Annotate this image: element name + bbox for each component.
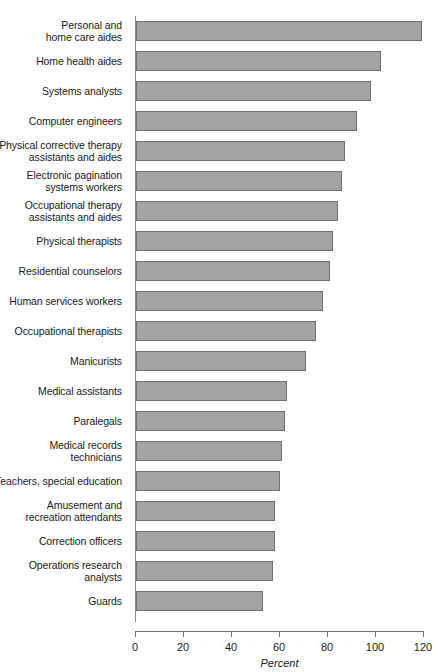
axis-tick-label: 60 xyxy=(273,641,285,653)
category-label-line: Occupational therapists xyxy=(15,325,122,338)
chart-row: Computer engineers xyxy=(0,106,439,136)
bar xyxy=(136,561,273,581)
bar-track xyxy=(136,136,439,166)
category-label-line: technicians xyxy=(71,451,122,464)
bar xyxy=(136,111,357,131)
category-label: Correction officers xyxy=(0,526,128,556)
bar xyxy=(136,531,275,551)
bar xyxy=(136,141,345,161)
chart-row: Occupational therapists xyxy=(0,316,439,346)
bar-track xyxy=(136,16,439,46)
chart-row: Manicurists xyxy=(0,346,439,376)
chart-row: Physical therapists xyxy=(0,226,439,256)
bar-track xyxy=(136,286,439,316)
category-label-line: Personal and xyxy=(61,19,122,32)
category-label: Electronic paginationsystems workers xyxy=(0,166,128,196)
chart-row: Electronic paginationsystems workers xyxy=(0,166,439,196)
axis-tick-label: 0 xyxy=(132,641,138,653)
bar-track xyxy=(136,166,439,196)
category-label-line: Occupational therapy xyxy=(25,199,122,212)
bar xyxy=(136,501,275,521)
category-label: Operations researchanalysts xyxy=(0,556,128,586)
category-label: Occupational therapists xyxy=(0,316,128,346)
category-label-line: Human services workers xyxy=(9,295,122,308)
category-label: Occupational therapyassistants and aides xyxy=(0,196,128,226)
category-label: Amusement andrecreation attendants xyxy=(0,496,128,526)
bar xyxy=(136,51,381,71)
bar-track xyxy=(136,496,439,526)
category-axis-line xyxy=(135,16,136,622)
chart-row: Physical corrective therapyassistants an… xyxy=(0,136,439,166)
bar-track xyxy=(136,46,439,76)
bar xyxy=(136,21,422,41)
category-label: Paralegals xyxy=(0,406,128,436)
category-label: Medical assistants xyxy=(0,376,128,406)
bar xyxy=(136,201,338,221)
category-label: Medical recordstechnicians xyxy=(0,436,128,466)
category-label: Physical therapists xyxy=(0,226,128,256)
chart-row: Medical assistants xyxy=(0,376,439,406)
axis-tick xyxy=(375,631,376,637)
chart-row: Guards xyxy=(0,586,439,616)
bar-track xyxy=(136,436,439,466)
bar-track xyxy=(136,526,439,556)
chart-row: Systems analysts xyxy=(0,76,439,106)
category-label: Personal andhome care aides xyxy=(0,16,128,46)
category-label: Human services workers xyxy=(0,286,128,316)
category-label-line: Computer engineers xyxy=(29,115,122,128)
category-label-line: Guards xyxy=(88,595,122,608)
category-label-line: Residential counselors xyxy=(19,265,122,278)
bar xyxy=(136,321,316,341)
chart-row: Occupational therapyassistants and aides xyxy=(0,196,439,226)
bar xyxy=(136,171,342,191)
axis-tick xyxy=(327,631,328,637)
category-label-line: Teachers, special education xyxy=(0,475,122,488)
category-label: Home health aides xyxy=(0,46,128,76)
axis-tick xyxy=(279,631,280,637)
category-label-line: assistants and aides xyxy=(29,151,122,164)
category-label-line: home care aides xyxy=(46,31,122,44)
bar-track xyxy=(136,346,439,376)
axis-tick xyxy=(135,631,136,637)
category-label-line: Home health aides xyxy=(36,55,122,68)
category-label-line: assistants and aides xyxy=(29,211,122,224)
bar-track xyxy=(136,316,439,346)
category-label-line: Operations research xyxy=(29,559,122,572)
category-label-line: Physical corrective therapy xyxy=(0,139,122,152)
bar xyxy=(136,291,323,311)
chart-row: Residential counselors xyxy=(0,256,439,286)
bar-track xyxy=(136,466,439,496)
axis-tick-label: 80 xyxy=(321,641,333,653)
category-label-line: recreation attendants xyxy=(25,511,122,524)
bar xyxy=(136,591,263,611)
horizontal-bar-chart: Personal andhome care aidesHome health a… xyxy=(0,0,439,672)
category-label-line: Paralegals xyxy=(73,415,122,428)
bar xyxy=(136,381,287,401)
axis-tick xyxy=(423,631,424,637)
category-label: Physical corrective therapyassistants an… xyxy=(0,136,128,166)
category-label-line: Medical assistants xyxy=(38,385,122,398)
category-label-line: systems workers xyxy=(45,181,122,194)
category-label: Computer engineers xyxy=(0,106,128,136)
bar xyxy=(136,471,280,491)
axis-tick xyxy=(231,631,232,637)
chart-row: Paralegals xyxy=(0,406,439,436)
x-axis-title: Percent xyxy=(135,657,424,669)
chart-row: Correction officers xyxy=(0,526,439,556)
category-label-line: Manicurists xyxy=(70,355,122,368)
category-label: Residential counselors xyxy=(0,256,128,286)
category-label: Manicurists xyxy=(0,346,128,376)
bar-track xyxy=(136,406,439,436)
category-label-line: Systems analysts xyxy=(42,85,122,98)
category-label-line: Electronic pagination xyxy=(27,169,122,182)
bar-track xyxy=(136,226,439,256)
bar-track xyxy=(136,586,439,616)
axis-tick-label: 20 xyxy=(177,641,189,653)
category-label: Systems analysts xyxy=(0,76,128,106)
bar-track xyxy=(136,376,439,406)
axis-tick xyxy=(183,631,184,637)
chart-row: Personal andhome care aides xyxy=(0,16,439,46)
bar xyxy=(136,351,306,371)
plot-area: Personal andhome care aidesHome health a… xyxy=(0,16,439,622)
bar-track xyxy=(136,556,439,586)
